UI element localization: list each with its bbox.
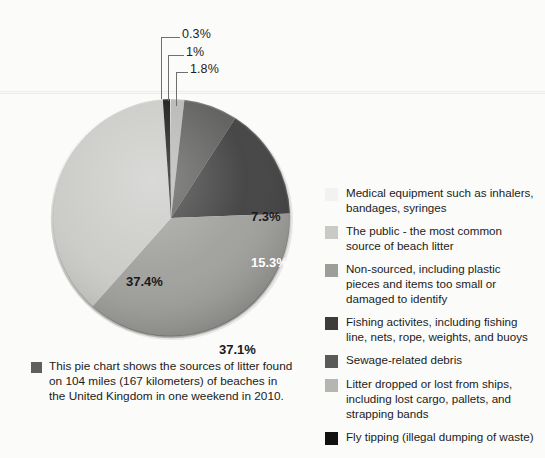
leader-line-fly-tipping-horizontal [168,55,184,56]
legend-swatch-medical [325,188,338,201]
slice-label-public: 37.4% [126,274,163,289]
leader-line-medical-horizontal [161,37,180,38]
legend-label-ships: Litter dropped or lost from ships, inclu… [346,377,535,421]
caption-bullet-icon [31,362,42,373]
slice-label-sewage: 7.3% [251,209,281,224]
legend-item-medical[interactable]: Medical equipment such as inhalers, band… [325,186,535,215]
slice-label-fishing: 15.3% [251,255,288,270]
legend-label-medical: Medical equipment such as inhalers, band… [346,186,535,215]
legend-swatch-ships [325,379,338,392]
leader-line-medical-vertical [161,37,162,99]
pie-chart: 7.3% 15.3% 37.1% 37.4% [48,92,294,342]
caption-text: This pie chart shows the sources of litt… [49,359,296,405]
legend-label-sewage: Sewage-related debris [346,353,462,368]
legend-label-non-sourced: Non-sourced, including plastic pieces an… [346,262,535,306]
callout-label-fly-tipping: 1% [186,45,204,59]
legend-item-fly-tipping[interactable]: Fly tipping (illegal dumping of waste) [325,430,535,445]
legend: Medical equipment such as inhalers, band… [325,186,535,454]
legend-label-public: The public - the most common source of b… [346,224,535,253]
legend-swatch-public [325,226,338,239]
legend-item-ships[interactable]: Litter dropped or lost from ships, inclu… [325,377,535,421]
leader-line-fly-tipping-vertical [168,55,169,101]
legend-swatch-fly-tipping [325,432,338,445]
chart-stage: 7.3% 15.3% 37.1% 37.4% 0.3% 1% 1.8% Medi… [0,0,545,458]
legend-item-non-sourced[interactable]: Non-sourced, including plastic pieces an… [325,262,535,306]
legend-item-public[interactable]: The public - the most common source of b… [325,224,535,253]
chart-caption: This pie chart shows the sources of litt… [31,359,296,405]
legend-swatch-fishing [325,317,338,330]
legend-swatch-sewage [325,355,338,368]
leader-line-ships-horizontal [176,72,188,73]
leader-line-ships-vertical [176,72,177,106]
callout-label-medical: 0.3% [182,27,211,41]
slice-label-non-sourced: 37.1% [219,342,256,357]
legend-item-fishing[interactable]: Fishing activites, including fishing lin… [325,315,535,344]
legend-label-fly-tipping: Fly tipping (illegal dumping of waste) [346,430,534,445]
legend-swatch-non-sourced [325,264,338,277]
legend-label-fishing: Fishing activites, including fishing lin… [346,315,535,344]
legend-item-sewage[interactable]: Sewage-related debris [325,353,535,368]
callout-label-ships: 1.8% [190,62,219,76]
